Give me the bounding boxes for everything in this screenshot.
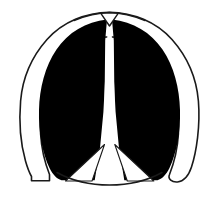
anatomical-diagram [0, 0, 219, 200]
figure-root [0, 0, 219, 200]
